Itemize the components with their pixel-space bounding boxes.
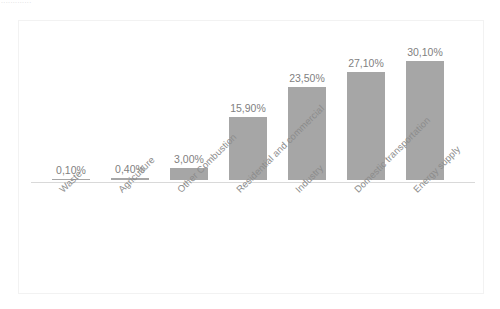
bar-value-label: 23,50%: [289, 72, 325, 84]
plot-area: 0,10% 0,40% 3,00% 15,90% 23,50% 27,10% 3…: [19, 21, 483, 293]
bar-value-label: 15,90%: [230, 102, 266, 114]
chart-frame: 0,10% 0,40% 3,00% 15,90% 23,50% 27,10% 3…: [18, 20, 484, 294]
bar-value-label: 27,10%: [348, 57, 384, 69]
bar-value-label: 30,10%: [407, 46, 443, 58]
clipped-header-text: .............: [1, 0, 31, 4]
